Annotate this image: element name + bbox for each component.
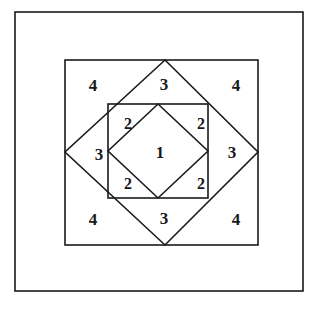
region-label-3-right: 3 [228,144,237,161]
region-label-4-bottom-left: 4 [89,211,98,228]
region-label-2-bottom-right: 2 [197,176,205,192]
region-label-1: 1 [156,144,165,161]
region-label-3-top: 3 [160,76,169,93]
region-label-4-top-right: 4 [232,77,241,94]
region-label-2-top-right: 2 [197,116,205,132]
region-label-4-top-left: 4 [89,77,98,94]
figure-container: 1 2 2 2 2 3 3 3 3 4 4 4 4 [0,0,316,309]
region-label-3-bottom: 3 [160,210,169,227]
region-label-4-bottom-right: 4 [232,211,241,228]
region-label-2-top-left: 2 [124,116,132,132]
region-label-2-bottom-left: 2 [124,176,132,192]
region-label-3-left: 3 [95,146,104,163]
